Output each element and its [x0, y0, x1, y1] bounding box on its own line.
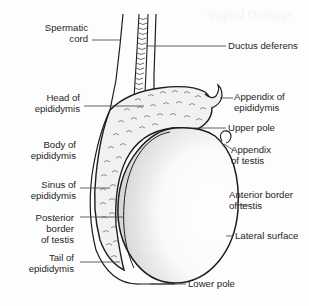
label-line: Posterior: [6, 212, 74, 223]
label-line: Ductus deferens: [228, 40, 298, 51]
label-line: epididymis: [6, 190, 76, 201]
label-line: epididymis: [6, 263, 74, 274]
label-line: Spermatic: [20, 22, 88, 33]
label-line: border: [6, 223, 74, 234]
label-head-of-epididymis: Head of epididymis: [10, 92, 80, 114]
label-line: Appendix of: [234, 91, 285, 102]
label-line: cord: [20, 33, 88, 44]
label-line: Lower pole: [188, 278, 235, 289]
label-line: Lateral surface: [235, 230, 298, 241]
label-line: epididymis: [6, 150, 76, 161]
ductus-deferens-shape: [134, 14, 148, 98]
label-line: Anterior border: [229, 189, 293, 200]
label-line: of testis: [6, 234, 74, 245]
label-line: of testis: [231, 155, 271, 166]
label-line: Head of: [10, 92, 80, 103]
label-line: Appendix: [231, 144, 271, 155]
label-line: Upper pole: [228, 122, 275, 133]
label-spermatic-cord: Spermatic cord: [20, 22, 88, 44]
testis-epididymis-diagram: Vaginal Drainage: [0, 0, 309, 306]
label-appendix-of-testis: Appendix of testis: [231, 144, 271, 166]
label-anterior-border-of-testis: Anterior border of testis: [229, 189, 293, 211]
label-line: Sinus of: [6, 179, 76, 190]
label-posterior-border-of-testis: Posterior border of testis: [6, 212, 74, 245]
label-appendix-of-epididymis: Appendix of epididymis: [234, 91, 285, 113]
label-body-of-epididymis: Body of epididymis: [6, 139, 76, 161]
label-line: of testis: [229, 200, 293, 211]
label-line: epididymis: [10, 103, 80, 114]
label-sinus-of-epididymis: Sinus of epididymis: [6, 179, 76, 201]
label-line: Tail of: [6, 252, 74, 263]
label-ductus-deferens: Ductus deferens: [228, 40, 298, 51]
label-lateral-surface: Lateral surface: [235, 230, 298, 241]
label-line: epididymis: [234, 102, 285, 113]
label-tail-of-epididymis: Tail of epididymis: [6, 252, 74, 274]
label-lower-pole: Lower pole: [188, 278, 235, 289]
label-upper-pole: Upper pole: [228, 122, 275, 133]
label-line: Body of: [6, 139, 76, 150]
